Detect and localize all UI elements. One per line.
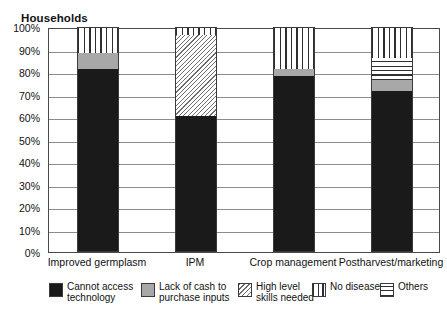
bar-segment[interactable] xyxy=(274,76,314,252)
y-tick-label: 30% xyxy=(19,181,40,191)
x-tick-label: Postharvest/marketing xyxy=(339,256,443,268)
bar-segment[interactable] xyxy=(78,69,118,251)
y-tick-label: 50% xyxy=(19,136,40,146)
legend-item[interactable]: Lack of cash to purchase inputs xyxy=(141,282,230,303)
legend-label: Others xyxy=(398,282,428,293)
legend-item[interactable]: Others xyxy=(380,282,428,297)
bar-column[interactable] xyxy=(175,27,217,252)
y-tick-label: 100% xyxy=(13,23,40,33)
bar-segment[interactable] xyxy=(372,80,412,91)
bar-column[interactable] xyxy=(77,27,119,252)
y-tick-label: 10% xyxy=(19,226,40,236)
chart-legend: Cannot access technologyLack of cash to … xyxy=(0,282,447,312)
legend-swatch-icon xyxy=(141,283,155,297)
chart-root: Households 100%90%80%70%60%50%40%30%20%1… xyxy=(0,0,447,318)
bar-segment[interactable] xyxy=(372,27,412,58)
legend-item[interactable]: No diseases xyxy=(312,282,385,297)
x-axis-labels: Improved germplasmIPMCrop managementPost… xyxy=(48,256,440,272)
legend-swatch-icon xyxy=(49,283,63,297)
bar-segment[interactable] xyxy=(274,69,314,76)
bar-segment[interactable] xyxy=(372,91,412,251)
legend-label: High level skills needed xyxy=(256,282,314,303)
y-tick-label: 0% xyxy=(25,248,40,258)
legend-swatch-icon xyxy=(238,283,252,297)
legend-swatch-icon xyxy=(312,283,326,297)
legend-label: Lack of cash to purchase inputs xyxy=(159,282,230,303)
bar-segment[interactable] xyxy=(176,116,216,251)
y-axis-labels: 100%90%80%70%60%50%40%30%20%10%0% xyxy=(0,28,44,253)
y-tick-label: 80% xyxy=(19,68,40,78)
bar-segment[interactable] xyxy=(176,35,216,116)
legend-label: No diseases xyxy=(330,282,385,293)
bar-segment[interactable] xyxy=(78,27,118,53)
legend-item[interactable]: High level skills needed xyxy=(238,282,314,303)
bar-column[interactable] xyxy=(273,27,315,252)
y-tick-label: 60% xyxy=(19,113,40,123)
plot-area xyxy=(48,28,440,253)
legend-label: Cannot access technology xyxy=(67,282,133,303)
y-tick-label: 20% xyxy=(19,203,40,213)
y-tick-label: 70% xyxy=(19,91,40,101)
legend-swatch-icon xyxy=(380,283,394,297)
x-tick-label: IPM xyxy=(186,256,205,268)
bar-segment[interactable] xyxy=(78,53,118,69)
legend-item[interactable]: Cannot access technology xyxy=(49,282,133,303)
bar-segment[interactable] xyxy=(176,27,216,35)
y-tick-label: 40% xyxy=(19,158,40,168)
y-tick-label: 90% xyxy=(19,46,40,56)
bar-segment[interactable] xyxy=(274,27,314,69)
x-tick-label: Crop management xyxy=(250,256,337,268)
x-tick-label: Improved germplasm xyxy=(48,256,147,268)
bar-column[interactable] xyxy=(371,27,413,252)
bar-segment[interactable] xyxy=(372,58,412,81)
